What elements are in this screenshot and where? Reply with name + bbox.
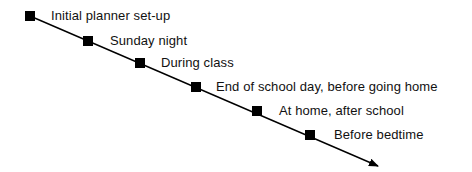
timeline-marker-2 bbox=[83, 36, 93, 46]
timeline-marker-4 bbox=[191, 82, 201, 92]
step-label-5: At home, after school bbox=[279, 104, 404, 118]
step-label-3: During class bbox=[161, 56, 234, 70]
step-label-6: Before bedtime bbox=[334, 128, 424, 142]
timeline-marker-6 bbox=[305, 130, 315, 140]
step-label-4: End of school day, before going home bbox=[216, 80, 438, 94]
step-label-1: Initial planner set-up bbox=[51, 9, 170, 23]
timeline-marker-5 bbox=[252, 106, 262, 116]
timeline-marker-1 bbox=[25, 11, 35, 21]
step-label-2: Sunday night bbox=[110, 34, 187, 48]
timeline-marker-3 bbox=[135, 58, 145, 68]
